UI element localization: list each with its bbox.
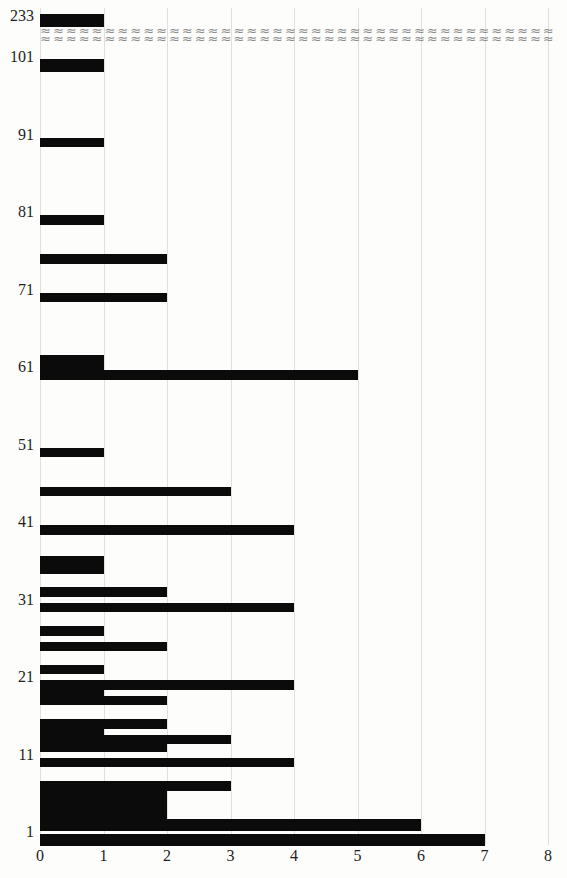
bar-row-19 [40, 696, 167, 706]
y-tick-label-31: 31 [0, 593, 34, 607]
bar-row-3 [40, 819, 421, 831]
gridline-x-7 [485, 8, 486, 845]
bar-row-61 [40, 370, 358, 380]
bar-row-41 [40, 525, 294, 535]
y-tick-label-61: 61 [0, 360, 34, 374]
gridline-x-3 [231, 8, 232, 845]
y-tick-label-51: 51 [0, 438, 34, 452]
gridline-x-5 [358, 8, 359, 845]
bar-row-91 [40, 138, 104, 148]
x-tick-label-7: 7 [470, 848, 500, 864]
gridline-x-6 [421, 8, 422, 845]
x-tick-label-5: 5 [343, 848, 373, 864]
y-tick-label-21: 21 [0, 670, 34, 684]
bar-row-71 [40, 293, 167, 303]
x-tick-label-6: 6 [406, 848, 436, 864]
x-tick-label-0: 0 [25, 848, 55, 864]
axis-break-squiggle: ≈≈≈≈≈≈≈≈≈≈≈≈≈≈≈≈≈≈≈≈≈≈≈≈≈≈≈≈≈≈≈≈≈≈≈≈≈≈≈≈… [40, 35, 557, 44]
x-tick-label-3: 3 [216, 848, 246, 864]
x-tick-label-4: 4 [279, 848, 309, 864]
y-tick-label-101: 101 [0, 50, 34, 64]
bar-row-23 [40, 665, 104, 675]
gridline-x-8 [548, 8, 549, 845]
bar-row-76 [40, 254, 167, 264]
bar-chart-figure: ≈≈≈≈≈≈≈≈≈≈≈≈≈≈≈≈≈≈≈≈≈≈≈≈≈≈≈≈≈≈≈≈≈≈≈≈≈≈≈≈… [0, 0, 567, 878]
bar-row-1 [40, 834, 485, 846]
bar-row-26 [40, 642, 167, 652]
bar-row-233 [40, 14, 104, 27]
x-tick-label-1: 1 [89, 848, 119, 864]
bar-row-36 [40, 564, 104, 574]
bar-row-101 [40, 59, 104, 72]
y-tick-label-11: 11 [0, 748, 34, 762]
gridline-x-2 [167, 8, 168, 845]
bar-row-28 [40, 626, 104, 636]
y-tick-label-81: 81 [0, 205, 34, 219]
bar-row-81 [40, 215, 104, 225]
bar-row-51 [40, 448, 104, 458]
gridline-x-4 [294, 8, 295, 845]
plot-area: ≈≈≈≈≈≈≈≈≈≈≈≈≈≈≈≈≈≈≈≈≈≈≈≈≈≈≈≈≈≈≈≈≈≈≈≈≈≈≈≈… [0, 0, 567, 878]
x-tick-label-8: 8 [533, 848, 563, 864]
y-tick-label-71: 71 [0, 283, 34, 297]
y-tick-label-233: 233 [0, 9, 34, 23]
bar-row-13 [40, 742, 167, 752]
bar-row-33 [40, 587, 167, 597]
x-tick-label-2: 2 [152, 848, 182, 864]
y-tick-label-1: 1 [0, 825, 34, 839]
y-tick-label-91: 91 [0, 128, 34, 142]
bar-row-31 [40, 603, 294, 613]
bar-row-11 [40, 758, 294, 768]
y-tick-label-41: 41 [0, 515, 34, 529]
bar-row-46 [40, 487, 231, 497]
